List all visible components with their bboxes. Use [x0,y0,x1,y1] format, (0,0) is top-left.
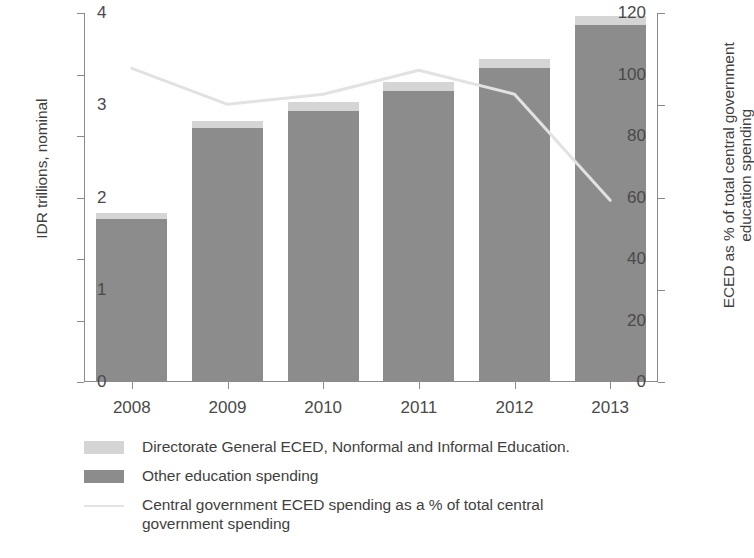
y-axis-right-tick [658,13,665,14]
line-series-svg [84,13,658,382]
legend-item-0[interactable]: Directorate General ECED, Nonformal and … [84,437,724,457]
y-axis-right-title-line1: ECED as % of total central government [720,42,737,308]
line-series-path [132,68,610,200]
y-axis-left-tick [77,13,84,14]
y-axis-right-tick-label: 0 [97,372,106,392]
legend-swatch-other [84,470,124,483]
x-axis-tick [610,382,611,389]
y-axis-left-tick-label: 0 [637,372,646,392]
y-axis-left-tick [77,259,84,260]
y-axis-right-title: ECED as % of total central governmentedu… [720,15,754,335]
x-axis-tick [228,382,229,389]
legend-item-2[interactable]: Central government ECED spending as a % … [84,495,724,535]
y-axis-right-tick [658,105,665,106]
legend-swatch-line [84,499,124,512]
x-axis-tick [515,382,516,389]
y-axis-left-tick-label: 100 [618,65,646,85]
y-axis-left-tick [77,321,84,322]
legend-label-2: Central government ECED spending as a % … [142,495,543,535]
y-axis-right-tick-label: 1 [97,280,106,300]
y-axis-right-title-line2: education spending [737,15,754,335]
y-axis-left-tick-label: 80 [627,126,646,146]
y-axis-right-tick [658,290,665,291]
y-axis-left-tick [77,382,84,383]
y-axis-right-tick [658,382,665,383]
y-axis-right-tick-label: 3 [97,95,106,115]
chart-legend: Directorate General ECED, Nonformal and … [84,437,724,543]
y-axis-left-title: IDR trillions, nominal [33,44,50,294]
x-axis-tick-label-2009: 2009 [209,398,247,418]
x-axis-tick-label-2010: 2010 [304,398,342,418]
legend-swatch-eced [84,441,124,454]
x-axis-tick-label-2008: 2008 [113,398,151,418]
x-axis-tick [132,382,133,389]
y-axis-left-tick-label: 40 [627,249,646,269]
y-axis-right-tick-label: 4 [97,3,106,23]
y-axis-left-tick-label: 120 [618,3,646,23]
y-axis-right-tick [658,198,665,199]
y-axis-right-tick-label: 2 [97,188,106,208]
x-axis-tick [323,382,324,389]
legend-item-1[interactable]: Other education spending [84,466,724,486]
y-axis-left-tick [77,75,84,76]
x-axis-tick-label-2011: 2011 [401,398,438,418]
x-axis-tick-label-2013: 2013 [591,398,629,418]
y-axis-left-tick-label: 20 [627,311,646,331]
x-axis-tick-label-2012: 2012 [496,398,534,418]
y-axis-left-tick [77,136,84,137]
plot-area: 020406080100120 01234 200820092010201120… [84,13,658,382]
y-axis-left-tick [77,198,84,199]
legend-label-1: Other education spending [142,466,318,486]
legend-label-0: Directorate General ECED, Nonformal and … [142,437,570,457]
x-axis-tick [419,382,420,389]
y-axis-left-tick-label: 60 [627,188,646,208]
